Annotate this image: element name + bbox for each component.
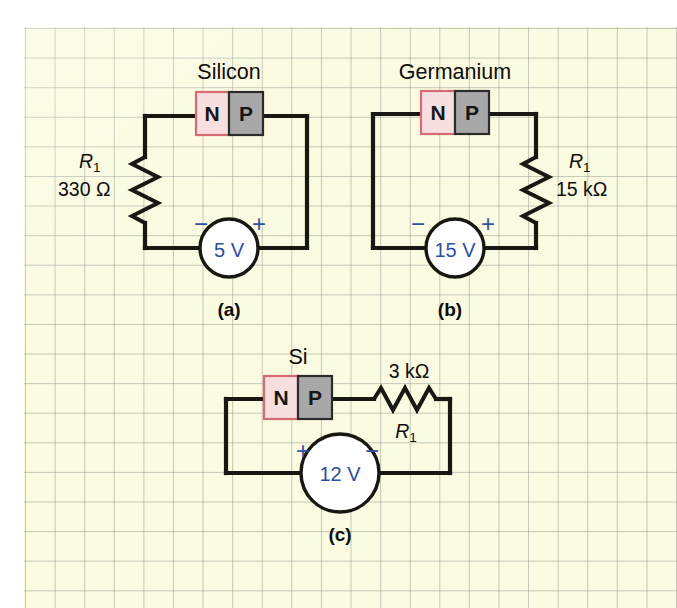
circuit-b-source-right-sign: +	[481, 212, 495, 236]
circuit-b-resistor-value: 15 kΩ	[556, 180, 607, 200]
circuit-a-source-value: 5 V	[214, 240, 244, 260]
circuit-a-resistor-designator-subscript: 1	[93, 160, 101, 175]
circuit-c-resistor-designator: R1	[395, 422, 417, 444]
circuit-b-source-left-sign: −	[411, 212, 425, 236]
circuit-a-resistor-value: 330 Ω	[58, 180, 111, 200]
circuit-a-source-left-sign: −	[194, 212, 208, 236]
circuit-c-p-label: P	[308, 387, 322, 408]
circuit-a-source-right-sign: +	[252, 212, 266, 236]
circuit-b-resistor-symbol	[523, 157, 549, 223]
circuit-b-resistor-designator-subscript: 1	[583, 160, 591, 175]
circuit-b-material-label: Germanium	[399, 62, 511, 84]
circuit-a-caption: (a)	[217, 300, 240, 319]
circuit-c-caption: (c)	[328, 525, 351, 544]
circuit-c-n-label: N	[273, 387, 288, 408]
circuit-b-resistor-designator-letter: R	[569, 150, 583, 172]
circuit-a-resistor-designator-letter: R	[79, 150, 93, 172]
circuit-b-caption: (b)	[438, 300, 462, 319]
circuit-c-resistor-designator-letter: R	[395, 420, 409, 442]
circuit-drawing-layer	[0, 0, 677, 608]
circuit-c-source-right-sign: −	[365, 439, 379, 463]
circuit-c-resistor-symbol	[374, 388, 436, 410]
circuit-a-resistor-symbol	[132, 157, 158, 223]
circuit-c-source-value: 12 V	[319, 464, 360, 484]
circuit-c-material-label: Si	[288, 347, 307, 369]
circuit-b-resistor-designator: R1	[569, 152, 591, 174]
circuit-a-material-label: Silicon	[197, 62, 260, 84]
circuit-c-resistor-value: 3 kΩ	[389, 362, 430, 382]
circuit-a-p-label: P	[239, 103, 253, 124]
circuit-c-source-left-sign: +	[296, 439, 310, 463]
circuit-a-resistor-designator: R1	[79, 152, 101, 174]
circuit-a-n-label: N	[204, 103, 219, 124]
circuit-b-p-label: P	[465, 102, 479, 123]
figure-root: Silicon N P R1 330 Ω − + 5 V (a) Germani…	[0, 0, 677, 608]
circuit-c-resistor-designator-subscript: 1	[409, 430, 417, 445]
circuit-b-source-value: 15 V	[434, 240, 475, 260]
circuit-b-n-label: N	[430, 102, 445, 123]
